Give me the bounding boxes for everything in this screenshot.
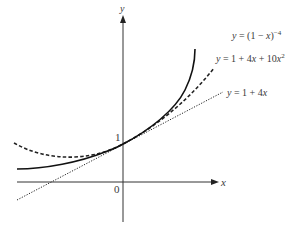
x-axis-label: x: [220, 176, 226, 188]
origin-label: 0: [114, 183, 120, 195]
y-axis-label: y: [119, 3, 125, 14]
curve-quadratic: [14, 68, 214, 157]
curve-exact: [17, 49, 195, 169]
label-quadratic: y = 1 + 4x + 10x2: [215, 52, 285, 64]
label-exact: y = (1 − x)−4: [231, 29, 282, 42]
y-intercept-label: 1: [115, 131, 121, 143]
label-linear: y = 1 + 4x: [226, 87, 268, 98]
y-axis: y: [119, 3, 126, 222]
x-axis-arrow-icon: [211, 179, 219, 185]
x-axis: x: [17, 176, 226, 188]
y-axis-arrow-icon: [120, 15, 126, 23]
function-graph: x y 0 1 y = (1 − x)−4 y = 1 + 4x + 10x2 …: [0, 0, 307, 226]
